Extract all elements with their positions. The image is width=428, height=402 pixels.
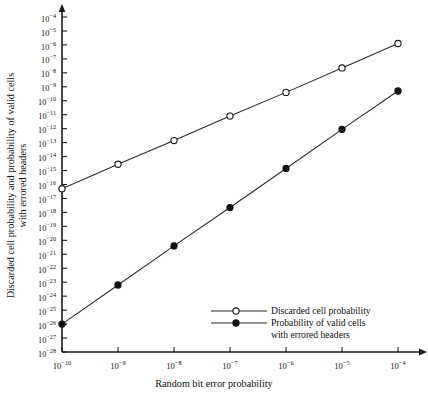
chart-legend: Discarded cell probability Probability o… bbox=[211, 305, 371, 341]
data-point-1 bbox=[59, 321, 65, 327]
data-point-0 bbox=[227, 113, 233, 119]
x-axis-title: Random bit error probability bbox=[0, 378, 428, 389]
legend-label-discarded: Discarded cell probability bbox=[267, 305, 371, 316]
x-tick-label: 10−7 bbox=[206, 359, 254, 371]
data-point-0 bbox=[171, 137, 177, 143]
data-point-1 bbox=[227, 204, 233, 210]
plot-canvas bbox=[0, 0, 428, 402]
x-tick-label: 10−6 bbox=[262, 359, 310, 371]
x-tick-label: 10−4 bbox=[374, 359, 422, 371]
data-point-1 bbox=[115, 282, 121, 288]
chart-figure: 10−410−510−610−710−810−910−1010−1110−121… bbox=[0, 0, 428, 402]
data-point-1 bbox=[395, 88, 401, 94]
x-tick-label: 10−9 bbox=[94, 359, 142, 371]
x-tick-label: 10−10 bbox=[38, 359, 86, 371]
x-tick-label: 10−8 bbox=[150, 359, 198, 371]
legend-filled-circle-icon bbox=[211, 317, 267, 328]
y-axis-title-line1: Discarded cell probability and probabili… bbox=[5, 73, 16, 298]
y-axis-title-line2: with errored headers bbox=[17, 144, 28, 228]
legend-open-circle-icon bbox=[211, 305, 267, 316]
y-axis-title: Discarded cell probability and probabili… bbox=[5, 21, 28, 351]
data-point-0 bbox=[395, 40, 401, 46]
data-point-0 bbox=[339, 65, 345, 71]
data-point-1 bbox=[171, 243, 177, 249]
data-point-1 bbox=[283, 165, 289, 171]
data-point-1 bbox=[339, 126, 345, 132]
legend-item-discarded-cell-probability: Discarded cell probability bbox=[211, 305, 371, 316]
legend-label-errored: Probability of valid cells with errored … bbox=[267, 317, 366, 340]
x-tick-label: 10−5 bbox=[318, 359, 366, 371]
legend-label-errored-line1: Probability of valid cells bbox=[271, 317, 366, 328]
legend-item-errored-headers: Probability of valid cells with errored … bbox=[211, 317, 371, 340]
legend-label-errored-line2: with errored headers bbox=[271, 329, 350, 340]
data-point-0 bbox=[115, 161, 121, 167]
data-point-0 bbox=[283, 89, 289, 95]
data-point-0 bbox=[59, 186, 65, 192]
